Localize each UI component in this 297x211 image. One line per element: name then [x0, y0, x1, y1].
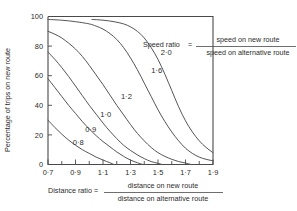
curve-label: 1·6: [151, 66, 162, 75]
y-tick-label: 40: [35, 101, 43, 110]
chart-figure: 020406080100 0·70·91·11·31·51·71·9 0·80·…: [0, 0, 297, 211]
x-tick-label: 0·7: [43, 168, 54, 177]
speed-ratio-numerator: speed on new route: [216, 35, 279, 44]
y-tick-label: 100: [31, 12, 43, 21]
line-chart-canvas: 020406080100 0·70·91·11·31·51·71·9 0·80·…: [0, 0, 297, 211]
distance-ratio-label: Distance ratio: [48, 186, 92, 195]
curve-label: 1·2: [121, 92, 132, 101]
y-tick-label: 60: [35, 71, 43, 80]
distance-ratio-denominator: distance on alternative route: [118, 194, 208, 203]
curve-label: 2·0: [161, 48, 172, 57]
speed-ratio-denominator: speed on alternative route: [206, 48, 289, 57]
curve-label: 0·9: [85, 125, 96, 134]
y-axis-title: Percentage of trips on new route: [3, 48, 12, 152]
y-tick-label: 80: [35, 42, 43, 51]
data-curve: [48, 52, 162, 164]
y-tick-label: 20: [35, 131, 43, 140]
x-axis-tick-labels: 0·70·91·11·31·51·71·9: [43, 168, 219, 177]
x-tick-label: 1·1: [98, 168, 109, 177]
x-tick-label: 1·9: [208, 168, 219, 177]
x-tick-label: 1·3: [125, 168, 136, 177]
x-tick-label: 0·9: [70, 168, 81, 177]
y-axis-tick-labels: 020406080100: [31, 12, 43, 169]
distance-ratio-numerator: distance on new route: [128, 181, 198, 190]
x-tick-label: 1·7: [180, 168, 191, 177]
speed-ratio-equals: =: [188, 40, 192, 49]
distance-ratio-annotation: Distance ratio = distance on new route d…: [48, 181, 223, 203]
speed-ratio-label: Speed ratio: [143, 40, 180, 49]
distance-ratio-equals: =: [94, 186, 98, 195]
x-tick-label: 1·5: [153, 168, 164, 177]
y-axis-ticks: [48, 17, 52, 165]
curve-label: 1·0: [100, 110, 111, 119]
curve-label: 0·8: [73, 138, 84, 147]
